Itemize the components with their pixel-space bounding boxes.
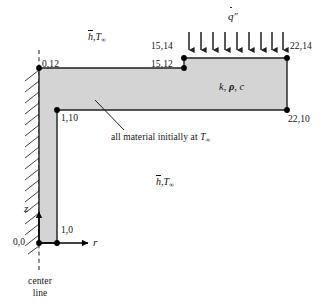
infinity-symbol-top: ∞	[101, 36, 106, 44]
q-dot-glyph: q	[228, 10, 234, 22]
node-dot-15-14	[181, 55, 187, 61]
node-dot-1-0	[54, 240, 60, 246]
heat-flux-arrows	[189, 32, 283, 50]
node-label-15-12: 15,12	[151, 60, 173, 70]
node-dot-1-10	[54, 107, 60, 113]
center-line-word-2: line	[17, 288, 63, 300]
node-dot-22-14	[284, 55, 290, 61]
node-label-1-10: 1,10	[61, 114, 78, 124]
material-properties-label: k, ρ, c	[219, 81, 244, 92]
node-label-22-10: 22,10	[288, 115, 310, 125]
heat-flux-symbol: q″	[228, 10, 238, 22]
figure-root: 0,12 15,12 15,14 22,14 22,10 1,10 1,0 0,…	[0, 0, 325, 304]
node-dot-0-0	[36, 240, 42, 246]
node-label-0-0: 0,0	[13, 238, 25, 248]
node-dot-15-12	[181, 65, 187, 71]
node-label-22-14: 22,14	[290, 42, 312, 52]
h-bar-bottom: h	[156, 176, 161, 187]
center-line-caption: center line	[17, 276, 63, 300]
initial-condition-label: all material initially at T∞	[111, 133, 211, 144]
node-label-15-14: 15,14	[151, 42, 173, 52]
initial-condition-text: all material initially at	[111, 132, 200, 142]
solid-body-polygon	[39, 58, 287, 243]
axis-label-r: r	[93, 237, 97, 249]
double-prime-glyph: ″	[234, 11, 238, 22]
node-label-0-12: 0,12	[42, 60, 59, 70]
infinity-symbol-ic: ∞	[206, 136, 211, 144]
center-line-word-1: center	[17, 276, 63, 288]
node-label-1-0: 1,0	[61, 226, 73, 236]
c-symbol: c	[240, 81, 245, 92]
axis-label-z: z	[24, 203, 28, 215]
hatching-group	[25, 70, 39, 254]
convection-label-bottom: h,T∞	[156, 176, 174, 189]
h-bar-top: h	[88, 31, 93, 42]
convection-label-top: h,T∞	[88, 31, 106, 44]
infinity-symbol-bottom: ∞	[169, 181, 174, 189]
node-dot-22-10	[284, 107, 290, 113]
